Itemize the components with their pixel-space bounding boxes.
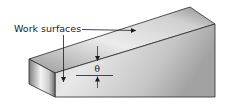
angle-theta-label: θ [95,64,100,74]
wedge-diagram: Work surfaces θ [0,0,229,104]
work-surfaces-label: Work surfaces [14,23,81,34]
